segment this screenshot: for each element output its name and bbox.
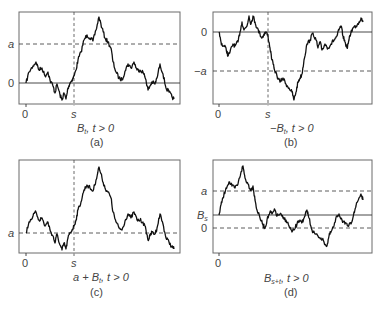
panel-a-sample-path [26,17,174,100]
panel-d-xlabel-0: 0 [215,257,221,269]
panel-a-caption: (a) [90,136,103,148]
panel-b-xlabel-0: 0 [215,108,221,120]
panel-a-ylabel-0: 0 [8,77,14,89]
panel-c: a 0 s a + Bt, t > 0 (c) [8,160,180,298]
panel-b-caption: (b) [284,136,297,148]
panel-d-ylabel-0: 0 [201,222,207,234]
panel-d-title: Bs+t, t > 0 [264,272,310,285]
panel-c-ylabel-a: a [8,227,14,239]
panel-a-ylabel-a: a [8,38,14,50]
panel-c-xlabel-s: s [71,257,77,269]
brownian-motion-figure: a 0 0 s Bt, t > 0 (a) 0 −a 0 s −Bt, t > … [0,0,381,313]
panel-b-frame [213,12,372,104]
panel-b-ylabel-minus-a: −a [194,65,207,77]
panel-a-title: Bt, t > 0 [77,122,115,135]
panel-d-frame [213,160,372,253]
panel-d-ylabel-a: a [201,185,207,197]
panel-b-sample-path [219,16,363,100]
panel-c-sample-path [26,167,174,250]
panel-a-xlabel-s: s [71,108,77,120]
panel-a: a 0 0 s Bt, t > 0 (a) [8,12,180,148]
panel-d-ylabel-bs: Bs [197,209,208,222]
panel-b: 0 −a 0 s −Bt, t > 0 (b) [194,12,372,148]
panel-d-caption: (d) [284,286,297,298]
panel-c-title: a + Bt, t > 0 [73,271,130,284]
panel-d: a Bs 0 0 Bs+t, t > 0 (d) [197,160,372,298]
panel-c-xlabel-0: 0 [22,257,28,269]
panel-b-xlabel-s: s [265,108,271,120]
panel-b-ylabel-0: 0 [201,26,207,38]
panel-c-caption: (c) [90,286,103,298]
panel-d-sample-path [219,166,363,247]
panel-c-frame [19,160,180,253]
panel-a-frame [19,12,180,104]
panel-a-xlabel-0: 0 [22,108,28,120]
panel-b-title: −Bt, t > 0 [270,122,314,135]
